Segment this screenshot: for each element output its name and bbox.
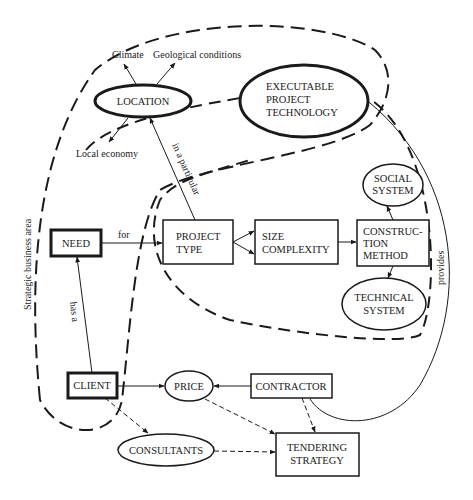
edge-label-has-a: has a xyxy=(68,301,81,323)
need-label: NEED xyxy=(62,238,90,249)
technical-system-node xyxy=(342,278,426,330)
consultants-label: CONSULTANTS xyxy=(129,445,203,456)
edge-label-in-a-particular: in a particular xyxy=(170,141,203,197)
size-complexity-node xyxy=(255,220,338,264)
executable-label-2: PROJECT xyxy=(266,94,311,105)
concept-diagram: LOCATION Climate Geological conditions L… xyxy=(0,0,473,500)
size-label-2: COMPLEXITY xyxy=(262,244,330,255)
tendering-label-1: TENDERING xyxy=(287,442,347,453)
price-label: PRICE xyxy=(174,381,204,392)
executable-label-1: EXECUTABLE xyxy=(266,81,334,92)
climate-label: Climate xyxy=(112,49,144,60)
project-type-label-2: TYPE xyxy=(176,244,202,255)
social-label-1: SOCIAL xyxy=(374,173,412,184)
project-type-label-1: PROJECT xyxy=(176,231,221,242)
executable-label-3: TECHNOLOGY xyxy=(266,107,338,118)
client-label: CLIENT xyxy=(73,380,111,391)
construction-label-2: TION xyxy=(363,238,388,249)
technical-label-2: SYSTEM xyxy=(363,305,405,316)
social-label-2: SYSTEM xyxy=(372,185,414,196)
strategic-business-area-label: Strategic business area xyxy=(22,218,33,310)
construction-label-1: CONSTRUC- xyxy=(363,226,423,237)
technical-label-1: TECHNICAL xyxy=(354,292,414,303)
edge-label-provides: provides xyxy=(435,250,446,285)
size-label-1: SIZE xyxy=(262,231,284,242)
contractor-label: CONTRACTOR xyxy=(256,381,327,392)
construction-label-3: METHOD xyxy=(363,250,408,261)
local-economy-label: Local economy xyxy=(76,148,138,159)
project-type-node xyxy=(163,220,233,264)
edge-label-for: for xyxy=(118,229,130,240)
location-label: LOCATION xyxy=(117,96,170,107)
geological-label: Geological conditions xyxy=(153,49,241,60)
tendering-label-2: STRATEGY xyxy=(290,455,344,466)
